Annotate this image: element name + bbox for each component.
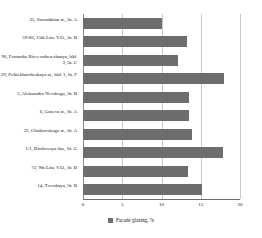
bar [83, 147, 223, 158]
category-label: 35, Savushkina st., lit. A [0, 17, 77, 23]
bar [83, 36, 187, 47]
bar [83, 184, 202, 195]
bar-row [83, 73, 240, 84]
bar-row [83, 166, 240, 177]
bar [83, 55, 178, 66]
plot-area [83, 14, 240, 199]
value-tick-label: 10 [159, 201, 164, 208]
value-axis-tick-labels: 05101520 [83, 201, 240, 211]
bar-row [83, 55, 240, 66]
category-label: 29, Politekhnicheskaya st., bld. 1, lit.… [0, 72, 77, 78]
bar-rows [83, 14, 240, 199]
category-label: 90, Fontanka River naberezhnaya, bld. 3,… [0, 54, 77, 66]
bar-row [83, 92, 240, 103]
value-tick-label: 0 [82, 201, 85, 208]
category-label: 5, Aleksandra Nevskogo, lit. B [0, 91, 77, 97]
category-label: 72, 9th Line V.O., lit. B [0, 165, 77, 171]
bar [83, 92, 189, 103]
bar-row [83, 129, 240, 140]
value-tick-label: 20 [238, 201, 243, 208]
bar [83, 129, 192, 140]
category-label: 6, Guseva st., lit. A [0, 109, 77, 115]
bar-chart: 35, Savushkina st., lit. A59-60, 15th Li… [0, 0, 262, 238]
category-axis-labels: 35, Savushkina st., lit. A59-60, 15th Li… [0, 14, 80, 199]
category-axis-line [83, 199, 240, 200]
bar-row [83, 147, 240, 158]
bar [83, 110, 189, 121]
legend-color-swatch [108, 218, 113, 223]
bar [83, 18, 162, 29]
bar-row [83, 18, 240, 29]
gridline [240, 14, 241, 199]
value-tick-label: 5 [121, 201, 124, 208]
category-label: 59-60, 15th Line V.O., lit. B [0, 35, 77, 41]
category-label: 1/1, Birzhevaya line, lit. G [0, 146, 77, 152]
category-label: 14, Tverskaya, lit. B [0, 183, 77, 189]
bar [83, 73, 224, 84]
bar-row [83, 110, 240, 121]
legend-label: Facade glazing, % [116, 217, 154, 224]
value-tick-label: 15 [198, 201, 203, 208]
bar-row [83, 36, 240, 47]
bar [83, 166, 188, 177]
chart-legend: Facade glazing, % [0, 217, 262, 224]
bar-row [83, 184, 240, 195]
category-label: 22, Chaikovskogo st., lit. A [0, 128, 77, 134]
